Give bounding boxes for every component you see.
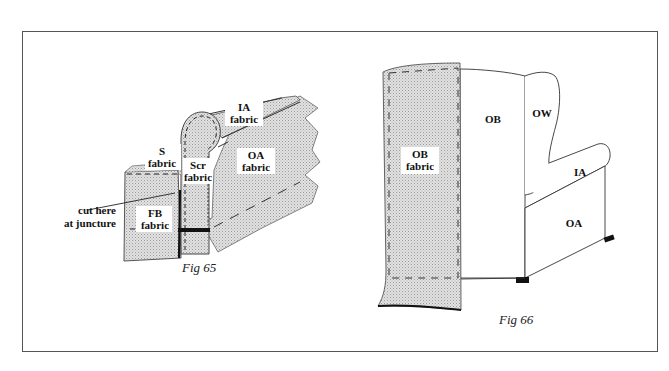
label-scr-fabric-2: fabric — [184, 171, 212, 183]
upholstery-diagram: IA fabric S fabric Scr fabric OA fabric … — [0, 0, 669, 371]
label-ob: OB — [485, 113, 502, 125]
label-ia: IA — [574, 166, 586, 178]
ob-fabric-panel — [378, 63, 461, 310]
label-ia-fabric-2: fabric — [230, 113, 258, 125]
callout-cut-here: cut here — [78, 204, 116, 216]
fig66-caption: Fig 66 — [498, 312, 534, 327]
label-oa: OA — [566, 217, 583, 229]
label-ia-fabric-1: IA — [238, 101, 250, 113]
label-fb-fabric-2: fabric — [141, 219, 169, 231]
label-oa-fabric-2: fabric — [242, 161, 270, 173]
label-ob-fabric-2: fabric — [406, 160, 434, 172]
label-s-fabric-2: fabric — [148, 157, 176, 169]
callout-at-juncture: at juncture — [64, 217, 116, 229]
label-oa-fabric-1: OA — [248, 149, 265, 161]
label-ob-fabric-1: OB — [412, 148, 429, 160]
label-ow: OW — [532, 107, 552, 119]
label-scr-fabric-1: Scr — [190, 159, 206, 171]
chair-outer-back — [460, 69, 525, 279]
fig65-caption: Fig 65 — [181, 260, 217, 275]
fig66-drawing — [378, 63, 615, 310]
seam-tape — [178, 228, 210, 232]
label-s-fabric-1: S — [159, 145, 165, 157]
label-fb-fabric-1: FB — [148, 207, 163, 219]
